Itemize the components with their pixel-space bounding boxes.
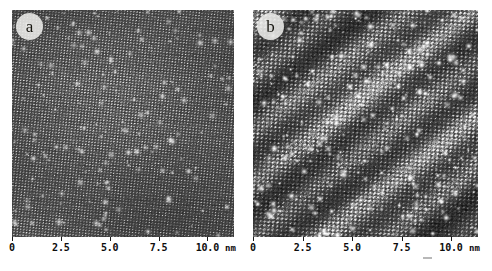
axis-tick-label-5-0: 5.0	[343, 242, 360, 253]
axis-tick-label-2-5: 2.5	[52, 242, 69, 253]
axis-tick-label-0: 0	[9, 242, 15, 253]
micrograph-image-a	[12, 10, 234, 237]
panel-a: a 02.55.07.510.0nm	[12, 10, 234, 237]
panel-label-b: b	[266, 18, 275, 35]
micrograph-image-b	[253, 10, 478, 237]
figure-root: a 02.55.07.510.0nm b 02.55.07.510.0nm	[0, 0, 492, 271]
axis-tick-label-10-0: 10.0	[439, 242, 462, 253]
axis-tick-2-5	[303, 237, 304, 241]
axis-tick-label-10-0: 10.0	[196, 242, 219, 253]
axis-tick-10-0	[451, 237, 452, 241]
axis-tick-5-0	[110, 237, 111, 241]
panel-b: b 02.55.07.510.0nm	[253, 10, 478, 237]
panel-label-badge-b: b	[257, 13, 284, 40]
axis-tick-label-2-5: 2.5	[294, 242, 311, 253]
axis-tick-label-5-0: 5.0	[101, 242, 118, 253]
axis-tick-5-0	[352, 237, 353, 241]
axis-unit-label: nm	[469, 243, 480, 253]
axis-tick-0	[12, 237, 13, 241]
axis-tick-7-5	[402, 237, 403, 241]
axis-tick-label-0: 0	[250, 242, 256, 253]
panel-label-badge-a: a	[16, 13, 43, 40]
axis-tick-label-7-5: 7.5	[393, 242, 410, 253]
axis-a: 02.55.07.510.0nm	[12, 237, 234, 271]
axis-tick-label-7-5: 7.5	[150, 242, 167, 253]
panel-label-a: a	[26, 18, 34, 35]
axis-tick-10-0	[207, 237, 208, 241]
scan-artifact-mark	[423, 257, 432, 259]
axis-tick-0	[253, 237, 254, 241]
axis-tick-7-5	[159, 237, 160, 241]
axis-tick-2-5	[61, 237, 62, 241]
axis-b: 02.55.07.510.0nm	[253, 237, 478, 271]
axis-unit-label: nm	[225, 243, 236, 253]
